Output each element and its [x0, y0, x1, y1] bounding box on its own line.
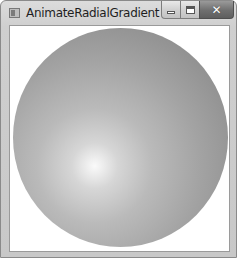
app-window: AnimateRadialGradient ✕: [0, 0, 237, 258]
app-icon[interactable]: [9, 8, 20, 18]
maximize-button[interactable]: [180, 1, 200, 19]
radial-gradient-ellipse: [13, 28, 228, 247]
client-area: [9, 25, 230, 252]
maximize-icon: [186, 6, 195, 14]
window-title: AnimateRadialGradient: [26, 6, 159, 20]
close-button[interactable]: ✕: [199, 1, 234, 19]
minimize-icon: [167, 11, 175, 14]
minimize-button[interactable]: [161, 1, 181, 19]
title-bar[interactable]: AnimateRadialGradient ✕: [1, 1, 236, 24]
close-icon: ✕: [211, 4, 221, 16]
